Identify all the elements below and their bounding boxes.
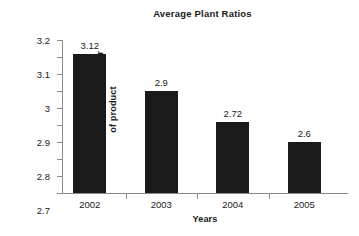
y-axis-tick: 2.9 <box>57 91 62 92</box>
bar: 3.12 <box>73 54 106 193</box>
y-axis-tick: 2.6 <box>57 142 62 143</box>
bar: 2.6 <box>288 142 321 193</box>
chart-screenshot: Average Plant Ratios Water Use Ratio lit… <box>0 0 359 236</box>
y-axis-tick: 2.3 <box>57 193 62 194</box>
x-axis-tick-label: 2003 <box>151 199 172 210</box>
y-axis-line <box>62 40 63 193</box>
y-axis-tick: 2.5 <box>57 159 62 160</box>
bar: 2.9 <box>145 91 178 193</box>
x-axis-minor-tick <box>126 193 127 199</box>
y-axis-tick: 3.1 <box>57 57 62 58</box>
y-axis-tick-label: 2.8 <box>20 171 50 182</box>
bar-value-label: 2.72 <box>224 108 243 119</box>
x-axis-tick-label: 2002 <box>79 199 100 210</box>
x-axis-title: Years <box>62 214 348 224</box>
y-axis-tick: 2.7 <box>57 125 62 126</box>
chart-title: Average Plant Ratios <box>0 8 359 19</box>
y-axis-tick-label: 3.2 <box>20 35 50 46</box>
y-axis-tick-label: 2.9 <box>20 137 50 148</box>
x-axis-minor-tick <box>197 193 198 199</box>
plot-area: 3.23.132.92.82.72.62.52.42.3 3.122.92.72… <box>62 40 348 193</box>
bar: 2.72 <box>216 122 249 193</box>
x-axis-tick-label: 2005 <box>294 199 315 210</box>
bar-value-label: 3.12 <box>81 40 100 51</box>
y-axis-tick: 2.4 <box>57 176 62 177</box>
x-axis-minor-tick <box>269 193 270 199</box>
bar-value-label: 2.6 <box>298 128 311 139</box>
y-axis-tick-label: 3.1 <box>20 69 50 80</box>
y-axis-tick: 2.8 <box>57 108 62 109</box>
x-axis-line <box>62 193 348 194</box>
y-axis-tick: 3 <box>57 74 62 75</box>
y-axis-tick: 3.2 <box>57 40 62 41</box>
y-axis-tick-label: 3 <box>20 103 50 114</box>
y-axis-tick-label: 2.7 <box>20 205 50 216</box>
bar-value-label: 2.9 <box>155 77 168 88</box>
x-axis-tick-label: 2004 <box>222 199 243 210</box>
